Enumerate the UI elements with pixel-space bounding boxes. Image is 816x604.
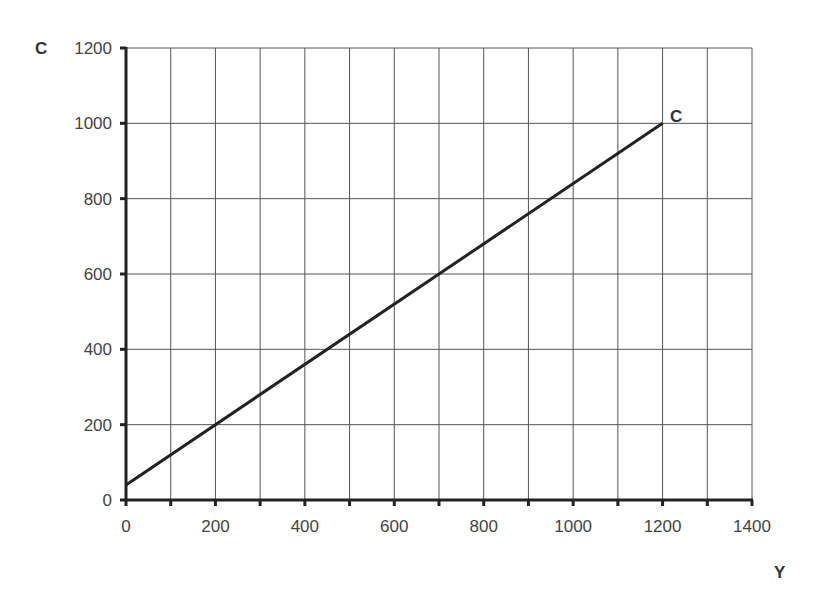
- x-tick-label: 1000: [554, 517, 592, 536]
- x-axis-title: Y: [774, 563, 786, 582]
- x-tick-label: 800: [470, 517, 498, 536]
- y-tick-label: 1200: [74, 39, 112, 58]
- y-axis-title: C: [35, 39, 47, 58]
- y-tick-label: 1000: [74, 114, 112, 133]
- y-tick-label: 600: [84, 265, 112, 284]
- y-tick-label: 800: [84, 190, 112, 209]
- y-tick-label: 400: [84, 340, 112, 359]
- x-tick-label: 0: [121, 517, 130, 536]
- x-tick-label: 1400: [733, 517, 771, 536]
- y-tick-label: 0: [103, 491, 112, 510]
- x-tick-label: 600: [380, 517, 408, 536]
- x-tick-label: 200: [201, 517, 229, 536]
- x-tick-label: 1200: [644, 517, 682, 536]
- series-end-label: C: [670, 107, 682, 126]
- consumption-function-chart: 0200400600800100012000200400600800100012…: [0, 0, 816, 604]
- y-tick-label: 200: [84, 416, 112, 435]
- x-tick-label: 400: [291, 517, 319, 536]
- tick-labels: 0200400600800100012000200400600800100012…: [74, 39, 771, 536]
